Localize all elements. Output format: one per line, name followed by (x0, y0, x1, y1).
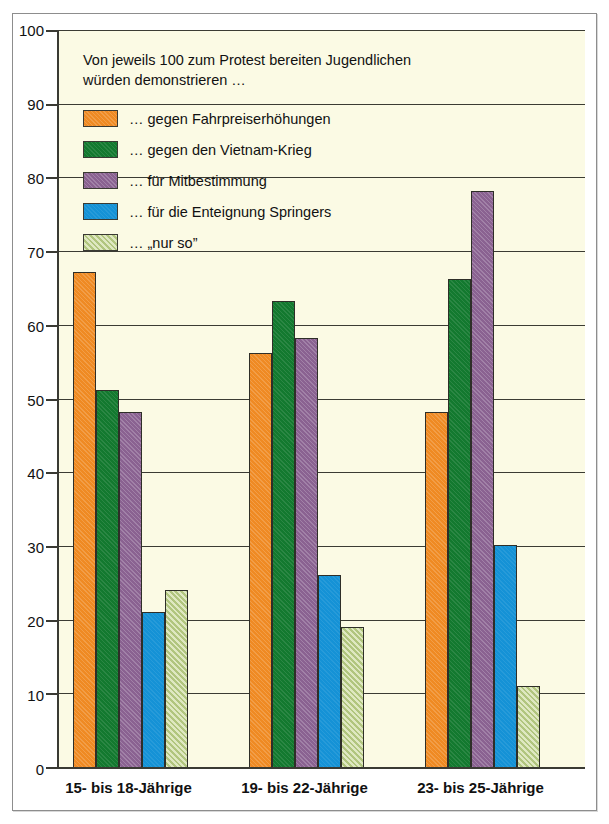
y-axis-labels: 0102030405060708090100 (13, 30, 44, 769)
y-axis-tick (46, 546, 59, 548)
bar[interactable] (494, 545, 517, 767)
y-axis-tick-label: 10 (10, 687, 44, 704)
y-axis-tick-label: 20 (10, 613, 44, 630)
y-axis-tick-label: 60 (10, 317, 44, 334)
legend-swatch-icon (83, 110, 118, 127)
bar[interactable] (425, 412, 448, 767)
bar[interactable] (165, 590, 188, 767)
legend-item[interactable]: … gegen Fahrpreiserhöhungen (83, 103, 483, 134)
bar[interactable] (142, 612, 165, 767)
legend-item[interactable]: … gegen den Vietnam-Krieg (83, 134, 483, 165)
y-axis-tick-label: 30 (10, 539, 44, 556)
y-axis-tick (46, 767, 59, 769)
plot-area: Von jeweils 100 zum Protest bereiten Jug… (57, 30, 585, 769)
y-axis-tick (46, 30, 59, 32)
bar[interactable] (295, 338, 318, 767)
bar[interactable] (341, 627, 364, 767)
bar[interactable] (471, 191, 494, 767)
legend-item[interactable]: … für Mitbestimmung (83, 165, 483, 196)
legend-item-label: … für die Enteignung Springers (129, 204, 331, 220)
legend-item[interactable]: … „nur so” (83, 227, 483, 258)
legend-swatch-icon (83, 203, 118, 220)
legend-item-label: … gegen den Vietnam-Krieg (129, 142, 312, 158)
legend-rows: … gegen Fahrpreiserhöhungen… gegen den V… (83, 103, 483, 258)
y-axis-tick (46, 177, 59, 179)
y-axis-tick-label: 40 (10, 465, 44, 482)
x-axis-category-label: 19- bis 22-Jährige (241, 779, 368, 796)
legend-item-label: … „nur so” (129, 235, 198, 251)
y-axis-tick (46, 472, 59, 474)
legend-item-label: … gegen Fahrpreiserhöhungen (129, 111, 331, 127)
legend-swatch-icon (83, 172, 118, 189)
y-axis-tick (46, 399, 59, 401)
chart-figure: 0102030405060708090100 Von jeweils 100 z… (12, 13, 597, 811)
legend-caption: Von jeweils 100 zum Protest bereiten Jug… (83, 50, 483, 90)
y-axis-tick-label: 90 (10, 95, 44, 112)
bar[interactable] (272, 301, 295, 767)
bar[interactable] (119, 412, 142, 767)
y-axis-tick (46, 104, 59, 106)
bar[interactable] (96, 390, 119, 767)
x-axis-category-label: 23- bis 25-Jährige (417, 779, 544, 796)
y-axis-tick-label: 100 (10, 22, 44, 39)
bar[interactable] (517, 686, 540, 767)
chart-legend: Von jeweils 100 zum Protest bereiten Jug… (83, 50, 483, 258)
legend-item[interactable]: … für die Enteignung Springers (83, 196, 483, 227)
y-axis-tick (46, 620, 59, 622)
x-axis-category-label: 15- bis 18-Jährige (65, 779, 192, 796)
bar[interactable] (318, 575, 341, 767)
bar[interactable] (249, 353, 272, 767)
bar[interactable] (448, 279, 471, 767)
y-axis-tick-label: 50 (10, 391, 44, 408)
y-axis-tick-label: 0 (10, 761, 44, 778)
y-axis-tick-label: 70 (10, 243, 44, 260)
legend-item-label: … für Mitbestimmung (129, 173, 267, 189)
y-axis-tick-label: 80 (10, 169, 44, 186)
legend-swatch-icon (83, 234, 118, 251)
x-axis-labels: 15- bis 18-Jährige19- bis 22-Jährige23- … (57, 779, 585, 807)
bar[interactable] (73, 272, 96, 767)
y-axis-tick (46, 325, 59, 327)
legend-swatch-icon (83, 141, 118, 158)
y-axis-tick (46, 693, 59, 695)
y-axis-tick (46, 251, 59, 253)
